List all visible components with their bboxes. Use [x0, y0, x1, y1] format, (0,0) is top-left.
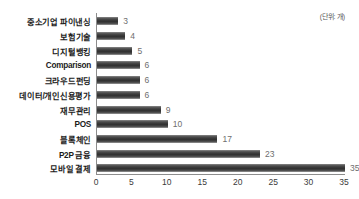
x-axis-tick-label: 30 [304, 177, 313, 187]
category-label: Comparison [46, 61, 91, 70]
bar [97, 150, 260, 158]
bar [97, 32, 125, 40]
bar-row: 블록체인17 [96, 132, 345, 147]
bar-row: 보험기술4 [96, 29, 345, 44]
value-label: 10 [173, 119, 182, 129]
category-label: POS [74, 120, 91, 129]
category-label: 중소기업 파이낸싱 [27, 15, 91, 27]
value-label: 6 [145, 75, 150, 85]
x-axis-tick-label: 15 [198, 177, 207, 187]
bar [97, 76, 140, 84]
category-label: 크라우드펀딩 [45, 74, 92, 86]
category-label: 데이터/개인신용평가 [19, 89, 91, 101]
x-axis-tick-label: 0 [94, 177, 99, 187]
bar-row: 디지털뱅킹5 [96, 43, 345, 58]
bar-row: 재무관리9 [96, 102, 345, 117]
bar [97, 91, 140, 99]
x-axis-tick-label: 20 [233, 177, 242, 187]
category-label: 모바일 결제 [50, 162, 91, 174]
bar [97, 164, 345, 172]
bar-row: P2P 금융23 [96, 146, 345, 161]
value-label: 23 [265, 149, 274, 159]
category-label: 블록체인 [60, 133, 91, 145]
bar-row: POS10 [96, 117, 345, 132]
bar-row: 중소기업 파이낸싱3 [96, 14, 345, 29]
plot-area: 중소기업 파이낸싱3보험기술4디지털뱅킹5Comparison6크라우드펀딩6데… [96, 13, 345, 175]
bar-row: Comparison6 [96, 58, 345, 73]
value-label: 5 [137, 46, 142, 56]
bar-row: 데이터/개인신용평가6 [96, 88, 345, 103]
x-axis-tick-label: 35 [339, 177, 348, 187]
bar [97, 61, 140, 69]
value-label: 4 [130, 31, 135, 41]
category-label: 재무관리 [60, 104, 91, 116]
category-label: 보험기술 [60, 30, 91, 42]
bar [97, 17, 118, 25]
x-axis-tick-label: 5 [129, 177, 134, 187]
value-label: 6 [145, 90, 150, 100]
bar [97, 106, 161, 114]
bar-row: 모바일 결제35 [96, 161, 345, 176]
value-label: 9 [166, 105, 171, 115]
value-label: 6 [145, 60, 150, 70]
value-label: 35 [350, 163, 359, 173]
bar-row: 크라우드펀딩6 [96, 73, 345, 88]
bar [97, 135, 217, 143]
value-label: 17 [222, 134, 231, 144]
x-axis-tick-label: 10 [162, 177, 171, 187]
bar [97, 120, 168, 128]
category-label: 디지털뱅킹 [52, 45, 91, 57]
bar [97, 47, 132, 55]
x-axis-tick-label: 25 [268, 177, 277, 187]
category-label: P2P 금융 [59, 148, 91, 160]
value-label: 3 [123, 16, 128, 26]
